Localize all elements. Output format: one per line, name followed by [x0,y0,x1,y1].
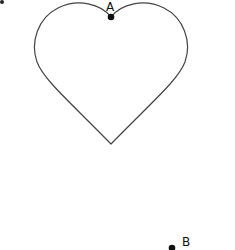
point-b-dot [169,245,176,250]
point-b-label: B [182,235,190,249]
heart-outline [35,3,188,144]
diagram-canvas: A B [0,0,235,250]
point-a-label: A [106,0,115,14]
corner-dot [0,0,4,4]
point-a-dot [108,14,115,21]
